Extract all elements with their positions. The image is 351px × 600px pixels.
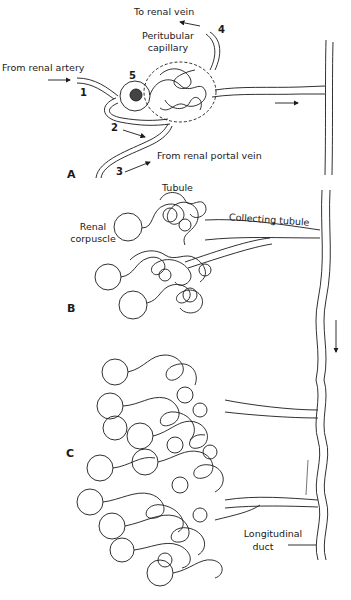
label-longitudinal-duct-2: duct — [238, 541, 288, 552]
label-peritubular-capillary-1: Peritubular — [138, 30, 198, 41]
label-from-renal-portal-vein: From renal portal vein — [157, 150, 262, 161]
number-3: 3 — [116, 166, 123, 177]
label-to-renal-vein: To renal vein — [134, 6, 194, 17]
panel-label-c: C — [66, 447, 74, 460]
number-2: 2 — [111, 122, 118, 133]
panel-label-b: B — [67, 302, 75, 315]
label-peritubular-capillary-2: capillary — [138, 42, 198, 53]
figure-caption-cropped — [0, 591, 351, 600]
panel-label-a: A — [67, 168, 76, 181]
label-renal-corpuscle-2: corpuscle — [68, 233, 118, 244]
label-from-renal-artery: From renal artery — [2, 62, 84, 73]
kidney-illustration — [0, 0, 351, 600]
number-5: 5 — [129, 70, 136, 81]
label-tubule: Tubule — [162, 182, 193, 193]
number-4: 4 — [218, 24, 225, 35]
label-longitudinal-duct-1: Longitudinal — [238, 528, 308, 539]
number-1: 1 — [80, 87, 87, 98]
label-renal-corpuscle-1: Renal — [68, 221, 118, 232]
